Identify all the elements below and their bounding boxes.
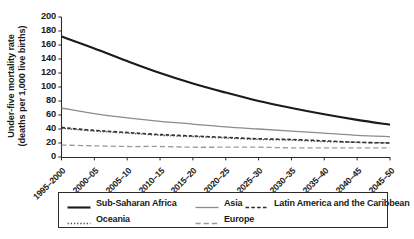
legend-label: Latin America and the Caribbean — [274, 199, 410, 208]
legend-line-swatch — [245, 198, 269, 208]
x-tick-label: 2020–25 — [225, 143, 254, 172]
chart-legend: Sub-Saharan AfricaAsiaLatin America and … — [58, 192, 388, 228]
legend-row-2: OceaniaEurope — [59, 211, 387, 227]
x-tick-label: 2030–35 — [291, 143, 320, 172]
legend-label: Sub-Saharan Africa — [96, 199, 177, 208]
x-tick-label: 2040–45 — [357, 143, 386, 172]
legend-label: Oceania — [96, 215, 130, 224]
legend-row-1: Sub-Saharan AfricaAsiaLatin America and … — [59, 195, 387, 211]
x-tick-label: 2000–05 — [94, 143, 123, 172]
x-tick-label: 2025–30 — [258, 143, 287, 172]
legend-label: Asia — [224, 199, 242, 208]
legend-line-swatch — [195, 214, 219, 224]
x-tick-label: 2015–20 — [192, 143, 221, 172]
x-tick-label: 2045–50 — [389, 143, 414, 172]
legend-line-swatch — [67, 198, 91, 208]
legend-item: Sub-Saharan Africa — [67, 195, 177, 211]
legend-item: Europe — [195, 211, 254, 227]
legend-line-swatch — [67, 214, 91, 224]
legend-line-swatch — [195, 198, 219, 208]
x-tick-label: 2035–40 — [324, 143, 353, 172]
x-tick-label: 2010–15 — [160, 143, 189, 172]
legend-item: Oceania — [67, 211, 130, 227]
legend-label: Europe — [224, 215, 254, 224]
legend-item: Asia — [195, 195, 242, 211]
x-tick-label: 2005–10 — [127, 143, 156, 172]
legend-item: Latin America and the Caribbean — [245, 195, 410, 211]
